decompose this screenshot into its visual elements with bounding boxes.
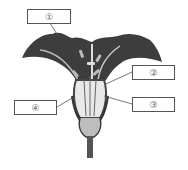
label-2: ② bbox=[132, 65, 175, 80]
flower-diagram bbox=[0, 0, 188, 170]
label-3-text: ③ bbox=[149, 100, 157, 110]
label-4: ④ bbox=[14, 100, 57, 115]
stalk bbox=[87, 136, 93, 158]
label-4-text: ④ bbox=[31, 103, 39, 113]
label-2-text: ② bbox=[149, 68, 157, 78]
label-1-text: ① bbox=[45, 12, 53, 22]
label-1: ① bbox=[27, 9, 71, 24]
label-3: ③ bbox=[132, 97, 175, 112]
